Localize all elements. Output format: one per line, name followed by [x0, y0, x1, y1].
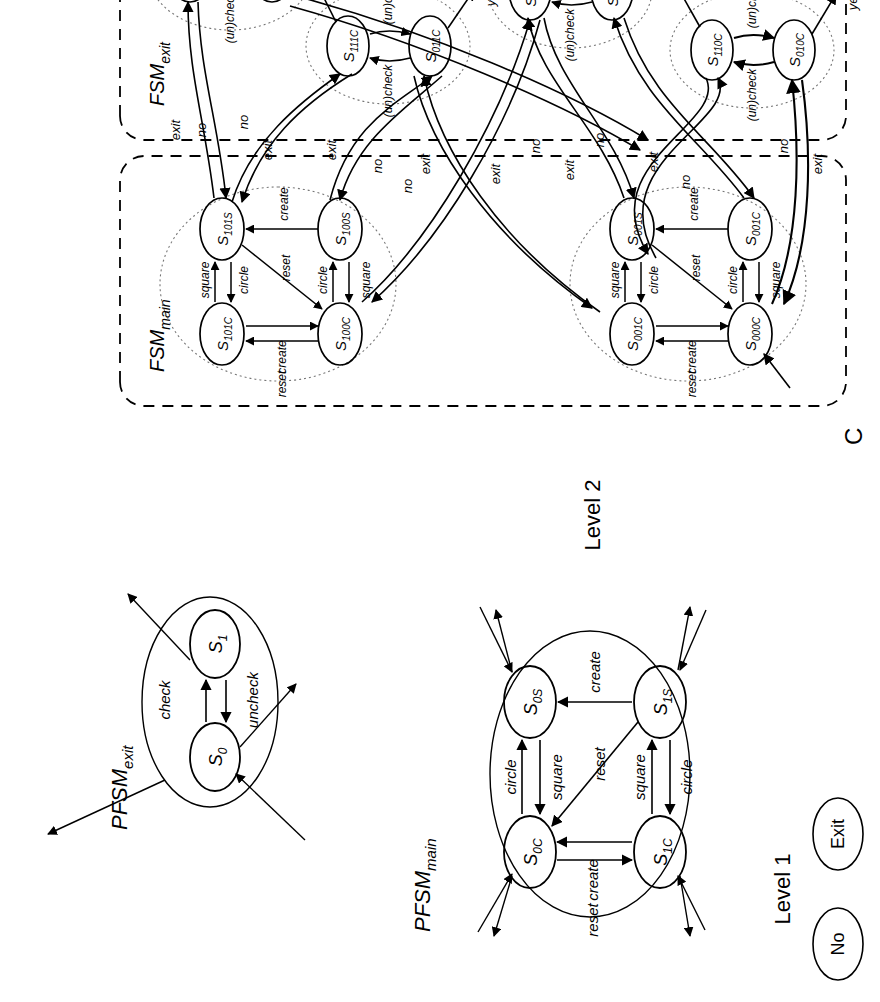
node-exit-label: Exit — [828, 819, 848, 849]
cross-label-exit-4: exit — [418, 152, 433, 174]
cross-label-no-2: no — [236, 115, 251, 129]
cross-label-no-8: no — [776, 139, 791, 153]
background — [0, 0, 880, 1002]
cross-label-exit-1: exit — [168, 118, 183, 140]
edge-label-create-1: create — [584, 859, 601, 901]
edge-label-uncheck-011a-a: (un)check — [563, 8, 577, 62]
cross-label-no-4: no — [400, 179, 415, 193]
cross-label-no-7: no — [678, 175, 693, 189]
edge-label-reset-000b: reset — [689, 254, 703, 281]
edge-label-reset-100b: reset — [279, 254, 293, 281]
cross-label-no-5: no — [528, 139, 543, 153]
edge-label-uncheck-011b-b: (un)check — [381, 0, 395, 24]
edge-label-circle-100: circle — [237, 266, 251, 294]
edge-label-reset-1: reset — [584, 903, 601, 937]
edge-label-reset-100: reset — [275, 370, 289, 397]
cross-label-no-1: no — [194, 123, 209, 137]
edge-label-reset-2: reset — [591, 747, 608, 781]
edge-label-square-000: square — [608, 261, 622, 298]
edge-label-circle-000: circle — [647, 266, 661, 294]
cross-label-exit-7: exit — [646, 150, 661, 172]
edge-label-create-000b: create — [687, 187, 701, 221]
cross-label-exit-3: exit — [324, 138, 339, 160]
edge-label-check: check — [156, 679, 173, 720]
out-label-yes-011c-b: yes — [483, 0, 498, 7]
panel-label-c: C — [840, 428, 867, 445]
cross-label-no-6: no — [592, 133, 607, 147]
edge-label-square-100: square — [198, 261, 212, 298]
figure-canvas: No Exit Level 1 PFSMmain S0C S1C — [0, 0, 880, 1002]
edge-label-reset-000: reset — [685, 370, 699, 397]
cross-label-exit-8: exit — [810, 152, 825, 174]
edge-label-circle-100b: circle — [316, 266, 330, 294]
edge-label-square-1: square — [548, 754, 565, 800]
cross-label-exit-2: exit — [260, 138, 275, 160]
edge-label-circle-000b: circle — [726, 266, 740, 294]
rotated-figure-layer: No Exit Level 1 PFSMmain S0C S1C — [0, 0, 880, 1002]
edge-label-uncheck-011s-a: (un)check — [223, 0, 237, 43]
edge-label-uncheck-010-b: (un)check — [745, 0, 759, 28]
cross-label-exit-5: exit — [488, 162, 503, 184]
edge-label-create-2: create — [586, 651, 603, 693]
cross-label-no-3: no — [370, 159, 385, 173]
edge-label-create-000: create — [685, 340, 699, 374]
node-no-label: No — [828, 932, 848, 955]
edge-label-square-2: square — [631, 754, 648, 800]
edge-label-uncheck: uncheck — [244, 671, 261, 728]
edge-label-create-100: create — [275, 340, 289, 374]
edge-label-create-100b: create — [277, 187, 291, 221]
level-1-caption: Level 1 — [770, 854, 795, 925]
edge-label-uncheck-010-a: (un)check — [745, 68, 759, 122]
cross-label-exit-6: exit — [562, 158, 577, 180]
edge-label-circle-2: circle — [678, 759, 695, 794]
level-2-caption: Level 2 — [580, 480, 605, 551]
out-label-yes-010c: yes — [845, 0, 860, 11]
fsm-hierarchy-diagram: No Exit Level 1 PFSMmain S0C S1C — [0, 0, 880, 1002]
edge-label-circle-1: circle — [502, 759, 519, 794]
